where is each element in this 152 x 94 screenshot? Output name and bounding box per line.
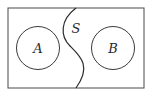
set-a-label: A [32, 41, 42, 56]
venn-diagram: A B S [0, 0, 152, 94]
universe-rectangle [8, 8, 144, 88]
separator-curve-s [63, 8, 84, 88]
set-b-label: B [107, 41, 118, 56]
separator-label: S [72, 21, 81, 36]
